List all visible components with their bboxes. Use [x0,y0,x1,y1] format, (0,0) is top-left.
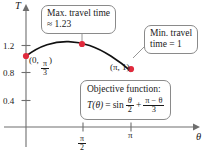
fraction-pi-over-3: π3 [41,60,49,77]
point-label-open: (0, [29,55,41,65]
fraction-theta-over-2: θ 2 [126,97,134,115]
callout-leader-lines [82,32,146,58]
calculus-graph-figure: T θ 1.2 0.8 0.4 π 2 π (0, π3) (π, 1) Max… [0,0,215,152]
fraction-denominator: 3 [41,69,49,77]
x-axis-label: θ [196,131,201,142]
point-maximum [79,41,85,47]
y-tick-label-0.4: 0.4 [3,96,14,106]
y-axis-arrow [23,4,30,11]
y-axis-label: T [15,0,21,11]
y-tick-label-1.2: 1.2 [3,41,14,51]
callout-min-line1: Min. travel [150,28,192,39]
point-label-close: ) [49,55,52,65]
formula-lhs: T(θ) [87,100,103,111]
fraction-denominator: 2 [78,144,86,152]
fraction-pi-minus-theta-over-3: π − θ 3 [143,97,164,115]
x-tick-label-pi: π [128,130,133,140]
y-tick-label-0.8: 0.8 [3,68,14,78]
point-label-right-endpoint: (π, 1) [110,62,130,72]
x-axis [4,123,200,132]
callout-min-line2: time = 1 [150,39,192,50]
point-label-left-endpoint: (0, π3) [29,55,52,77]
x-axis-arrow [193,124,200,131]
callout-objective-function: Objective function: T(θ) = sin θ 2 + π −… [80,80,171,120]
callout-min-travel-time: Min. travel time = 1 [144,25,198,54]
x-tick-label-pi-over-2: π 2 [78,130,86,152]
callout-max-travel-time: Max. travel time ≈ 1.23 [41,5,116,34]
fraction-denominator: 2 [126,106,134,114]
formula-plus: + [136,100,141,111]
callout-max-line2: ≈ 1.23 [47,19,110,30]
formula-sin: sin [113,100,124,111]
fraction-pi-over-2: π 2 [78,135,86,152]
formula-equals: = [105,100,110,111]
objective-title: Objective function: [87,84,164,95]
objective-formula: T(θ) = sin θ 2 + π − θ 3 [87,97,164,115]
callout-max-line1: Max. travel time [47,8,110,19]
fraction-denominator: 3 [150,106,158,114]
